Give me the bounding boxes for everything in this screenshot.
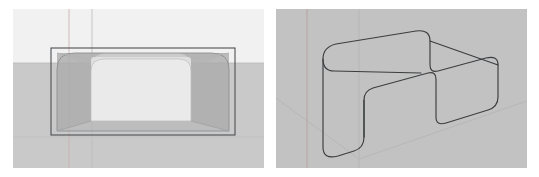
u-channel-inner-top-edge [323, 59, 421, 73]
right-viewport[interactable] [276, 9, 527, 168]
ground-axis-right [359, 101, 527, 159]
right-viewport-canvas [276, 9, 527, 168]
ground-axis-left [276, 98, 359, 159]
screenshot-root [0, 0, 539, 177]
solid-inner-aperture [91, 59, 191, 121]
left-viewport[interactable] [13, 9, 264, 168]
u-channel-outline [323, 31, 498, 157]
panel-gap [264, 0, 276, 177]
left-viewport-canvas [13, 9, 264, 168]
u-channel-right-flange-top-edge [430, 41, 498, 65]
